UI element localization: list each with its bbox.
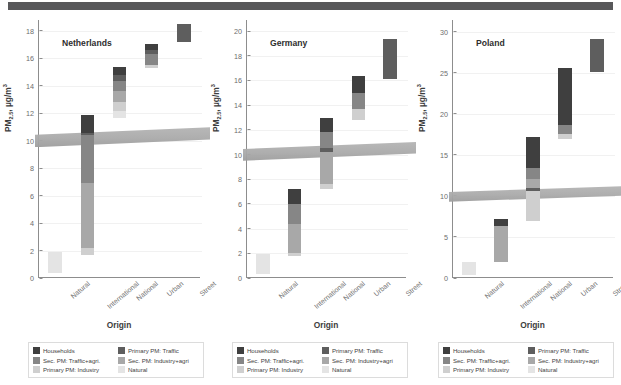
legend-label-primary-industry: Primary PM: Industry: [247, 366, 303, 373]
legend-item-primary-traffic[interactable]: Primary PM: Traffic: [322, 347, 404, 354]
legend-item-primary-traffic[interactable]: Primary PM: Traffic: [528, 347, 610, 354]
bar-segment-sec-traffic-agri: [288, 204, 301, 224]
bar-segment-primary-industry: [288, 253, 301, 255]
gridline: [453, 73, 615, 74]
bar-segment-primary-traffic: [320, 148, 333, 152]
bar-urban[interactable]: [558, 68, 571, 139]
legend-item-primary-industry[interactable]: Primary PM: Industry: [443, 366, 525, 373]
gridline: [247, 31, 408, 32]
panel-container: PM2.5, µg/m3 024681012141618 NaturalInte…: [0, 12, 621, 385]
legend-item-sec-industry-agri[interactable]: Sec. PM: Industry+agri: [118, 357, 200, 364]
legend-item-sec-industry-agri[interactable]: Sec. PM: Industry+agri: [528, 357, 610, 364]
legend-swatch-primary-industry: [237, 366, 244, 373]
y-axis-tick-label: 4: [238, 224, 247, 233]
x-axis-tick-urban: Urban: [579, 280, 598, 298]
x-axis-tick-natural: Natural: [483, 280, 505, 300]
bar-natural[interactable]: [462, 262, 475, 275]
legend-item-households[interactable]: Households: [443, 347, 525, 354]
bar-segment-sec-industry-agri: [526, 179, 539, 189]
legend-swatch-primary-traffic: [528, 347, 535, 354]
x-axis-tick-street: Street: [611, 280, 621, 297]
bar-segment-households: [145, 44, 159, 49]
bar-segment-natural: [256, 254, 269, 274]
bar-urban[interactable]: [145, 44, 159, 68]
legend-swatch-primary-traffic: [322, 347, 329, 354]
y-axis-tick-label: 6: [238, 199, 247, 208]
legend-swatch-sec-traffic-agri: [237, 357, 244, 364]
legend-swatch-primary-industry: [443, 366, 450, 373]
legend-item-primary-industry[interactable]: Primary PM: Industry: [33, 366, 115, 373]
y-axis-tick-label: 2: [238, 249, 247, 258]
legend-item-households[interactable]: Households: [237, 347, 319, 354]
legend-item-primary-traffic[interactable]: Primary PM: Traffic: [118, 347, 200, 354]
legend-item-natural[interactable]: Natural: [528, 366, 610, 373]
bar-segment-natural: [113, 111, 127, 118]
bar-national[interactable]: [526, 137, 539, 221]
figure-root: PM2.5, µg/m3 024681012141618 NaturalInte…: [0, 0, 621, 385]
bar-segment-natural: [462, 262, 475, 275]
gridline: [247, 229, 408, 230]
bar-segment-primary-traffic: [526, 188, 539, 190]
gridline: [39, 251, 202, 252]
x-axis-tick-international: International: [519, 280, 553, 310]
bar-segment-households: [558, 68, 571, 126]
bar-natural[interactable]: [48, 252, 62, 273]
y-axis-tick-label: 12: [26, 109, 39, 118]
legend-item-natural[interactable]: Natural: [118, 366, 200, 373]
bar-street[interactable]: [383, 39, 396, 79]
bar-segment-sec-traffic-agri: [81, 135, 95, 183]
bar-segment-primary-traffic: [113, 75, 127, 81]
legend-label-primary-industry: Primary PM: Industry: [43, 366, 99, 373]
y-axis-tick-label: 8: [238, 175, 247, 184]
bar-street[interactable]: [177, 24, 191, 42]
gridline: [39, 58, 202, 59]
bar-natural[interactable]: [256, 254, 269, 274]
bar-international[interactable]: [494, 219, 507, 263]
bar-national[interactable]: [113, 67, 127, 118]
bar-urban[interactable]: [352, 76, 365, 120]
x-axis-label: Origin: [38, 320, 200, 330]
y-axis-tick-label: 18: [26, 26, 39, 35]
legend-swatch-sec-industry-agri: [528, 357, 535, 364]
y-axis-tick-label: 16: [234, 76, 247, 85]
y-axis-tick-label: 15: [440, 150, 453, 159]
gridline: [39, 168, 202, 169]
gridline: [39, 196, 202, 197]
legend-item-sec-traffic-agri[interactable]: Sec. PM: Traffic+agri.: [443, 357, 525, 364]
legend-label-natural: Natural: [128, 366, 147, 373]
bar-segment-sec-traffic-agri: [145, 54, 159, 64]
bar-segment-households: [320, 118, 333, 132]
plot-area-netherlands: 024681012141618: [38, 20, 200, 278]
gridline: [39, 223, 202, 224]
y-axis-label: PM2.5, µg/m3: [210, 84, 222, 132]
legend-item-sec-traffic-agri[interactable]: Sec. PM: Traffic+agri.: [33, 357, 115, 364]
bar-international[interactable]: [81, 115, 95, 254]
gridline: [247, 204, 408, 205]
y-axis-label: PM2.5, µg/m3: [416, 84, 428, 132]
bar-segment-sec-traffic-agri: [320, 132, 333, 148]
legend-label-primary-traffic: Primary PM: Traffic: [332, 347, 383, 354]
bar-national[interactable]: [320, 118, 333, 190]
legend-swatch-natural: [528, 366, 535, 373]
bar-street[interactable]: [590, 39, 603, 72]
plot-inner: 024681012141618: [39, 20, 200, 277]
bar-international[interactable]: [288, 189, 301, 256]
legend-label-natural: Natural: [538, 366, 557, 373]
gridline: [453, 114, 615, 115]
legend-poland: HouseholdsPrimary PM: TrafficSec. PM: Tr…: [438, 342, 614, 378]
y-axis-tick-label: 4: [30, 219, 39, 228]
panel-title-poland: Poland: [476, 38, 505, 48]
legend-item-sec-traffic-agri[interactable]: Sec. PM: Traffic+agri.: [237, 357, 319, 364]
legend-label-households: Households: [43, 347, 75, 354]
bar-segment-households: [81, 115, 95, 132]
legend-label-sec-traffic-agri: Sec. PM: Traffic+agri.: [453, 357, 510, 364]
legend-label-households: Households: [247, 347, 279, 354]
bar-segment-households: [494, 219, 507, 226]
plot-area-poland: 051015202530: [452, 20, 613, 278]
legend-item-primary-industry[interactable]: Primary PM: Industry: [237, 366, 319, 373]
legend-item-natural[interactable]: Natural: [322, 366, 404, 373]
legend-item-households[interactable]: Households: [33, 347, 115, 354]
legend-label-sec-industry-agri: Sec. PM: Industry+agri: [538, 357, 599, 364]
legend-swatch-households: [237, 347, 244, 354]
legend-item-sec-industry-agri[interactable]: Sec. PM: Industry+agri: [322, 357, 404, 364]
